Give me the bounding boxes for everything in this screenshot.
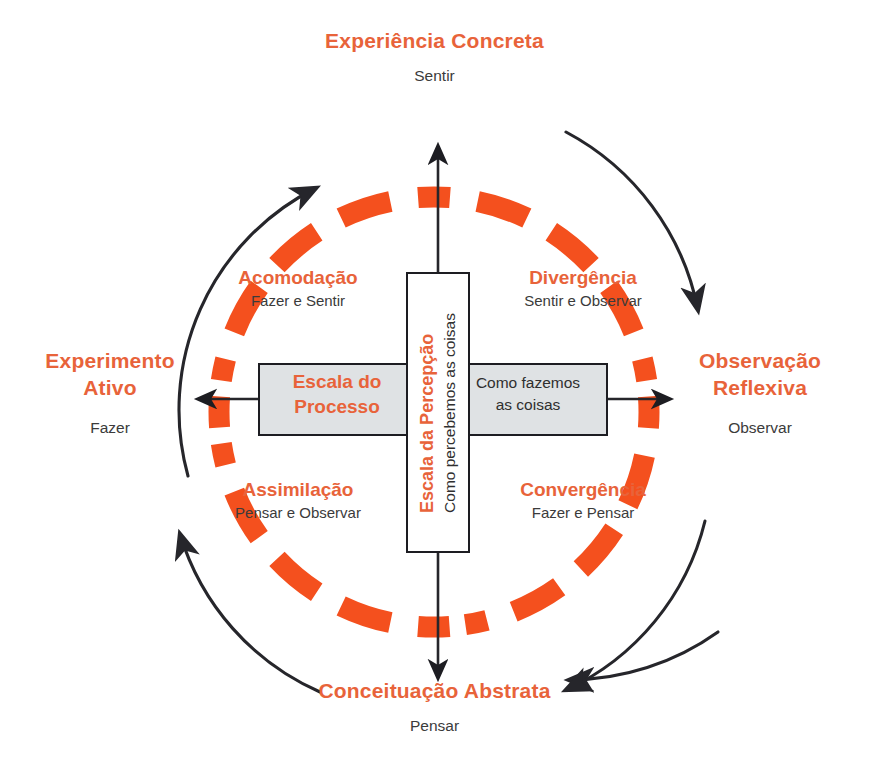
perception-scale-description: Como percebemos as coisas [440,313,459,513]
quadrant-assimilacao-title: Convergência [478,478,688,502]
process-scale-description: Como fazemos as coisas [452,372,604,417]
pole-label-active-experimentation: Experimento Ativo Fazer [10,348,210,438]
quadrant-convergencia-title: Assimilação [198,478,398,502]
quadrant-divergencia-sub: Sentir e Observar [478,291,688,310]
pole-label-abstract-conceptualization: Conceituação Abstrata Pensar [0,678,869,736]
quadrant-acomodacao-title: Acomodação [198,266,398,290]
perception-scale-textblock: Escala da Percepção Como percebemos as c… [406,272,470,553]
process-scale-description-line2: as coisas [496,396,561,413]
process-scale-label: Escala do Processo [262,370,412,419]
pole-right-title-line2: Reflexiva [660,375,860,402]
pole-right-sub: Observar [660,418,860,438]
arrow-assimilating [569,632,718,680]
quadrant-label-assimilating: Convergência Fazer e Pensar [478,478,688,523]
quadrant-convergencia-sub: Pensar e Observar [198,503,398,522]
quadrant-assimilacao-sub: Fazer e Pensar [478,503,688,522]
quadrant-acomodacao-sub: Fazer e Sentir [198,291,398,310]
pole-bottom-title: Conceituação Abstrata [0,678,869,705]
perception-scale-label: Escala da Percepção [417,333,439,512]
pole-top-sub: Sentir [0,66,869,86]
quadrant-label-diverging: Divergência Sentir e Observar [478,266,688,311]
arrow-assimilating-arc [566,521,705,690]
pole-left-title-line2: Ativo [10,375,210,402]
pole-left-title-line1: Experimento [10,348,210,375]
pole-left-sub: Fazer [10,418,210,438]
process-scale-description-line1: Como fazemos [476,374,580,391]
quadrant-label-converging: Assimilação Pensar e Observar [198,478,398,523]
process-scale-label-line2: Processo [294,396,380,417]
pole-label-concrete-experience: Experiência Concreta Sentir [0,28,869,86]
quadrant-label-accommodating: Acomodação Fazer e Sentir [198,266,398,311]
process-scale-label-line1: Escala do [293,371,382,392]
arrow-converging [180,534,320,692]
pole-right-title-line1: Observação [660,348,860,375]
pole-label-reflective-observation: Observação Reflexiva Observar [660,348,860,438]
quadrant-divergencia-title: Divergência [478,266,688,290]
pole-bottom-sub: Pensar [0,716,869,736]
pole-top-title: Experiência Concreta [0,28,869,55]
diagram-canvas: Escala do Processo Como fazemos as coisa… [0,0,869,772]
